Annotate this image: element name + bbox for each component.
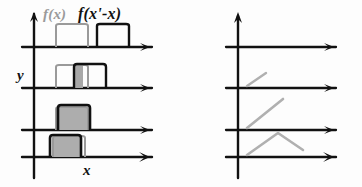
series-label-fx: f(x) bbox=[43, 6, 66, 23]
row2-convolution-trace bbox=[247, 73, 266, 86]
row4-overlap-fill bbox=[54, 137, 80, 157]
x-axis-label-left: x bbox=[83, 162, 91, 179]
series-label-f-shifted: f(x'-x) bbox=[78, 5, 121, 23]
convolution-figure: f(x) f(x'-x) x y bbox=[0, 0, 362, 187]
right-panel-graphics bbox=[190, 0, 362, 187]
row4-axis-right bbox=[226, 152, 336, 162]
y-axis-label-left: y bbox=[17, 67, 24, 84]
row1-fshift-rect bbox=[97, 24, 129, 47]
row2-axis-right bbox=[226, 84, 336, 92]
row2-fx-rect bbox=[56, 65, 88, 88]
row3-axis-right bbox=[226, 126, 336, 134]
y-axis-left bbox=[30, 12, 38, 178]
row2-overlap-fill bbox=[74, 66, 83, 88]
row4-axis bbox=[22, 152, 152, 162]
row3-convolution-trace bbox=[247, 99, 283, 128]
convolution-result-panel: f*f(x') x' y bbox=[190, 0, 362, 187]
row1-axis-right bbox=[226, 43, 336, 51]
y-axis-right bbox=[234, 12, 242, 178]
row3-overlap-fill bbox=[58, 108, 87, 130]
row1-fx-rect bbox=[56, 24, 88, 47]
signal-overlap-panel: f(x) f(x'-x) x y bbox=[0, 0, 190, 187]
row4-convolution-trace bbox=[247, 133, 303, 155]
left-panel-graphics bbox=[0, 0, 190, 187]
